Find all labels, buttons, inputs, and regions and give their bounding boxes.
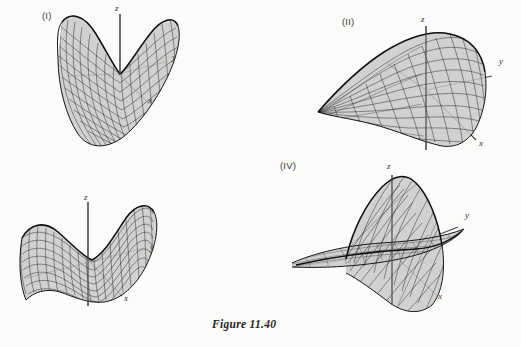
- surface-mesh-1: [57, 16, 179, 154]
- axis-label-y-3: y: [150, 242, 154, 252]
- axis-label-z-4: z: [387, 161, 391, 171]
- axis-label-y-4: y: [465, 210, 469, 220]
- panel-label-1: (I): [42, 10, 52, 21]
- surface-plot-2: [280, 0, 521, 165]
- panel-3: z y x: [0, 180, 230, 330]
- axis-label-z-2: z: [421, 14, 425, 24]
- figure-page: (I): [0, 0, 521, 347]
- surface-plot-3: [0, 180, 230, 330]
- axis-label-y-2: y: [499, 56, 503, 66]
- axis-label-z-3: z: [84, 192, 88, 202]
- panel-1: (I): [0, 0, 230, 160]
- surface-mesh-2: [318, 33, 486, 147]
- axis-label-x-2: x: [479, 138, 483, 148]
- panel-label-2: (II): [342, 16, 354, 27]
- surface-plot-4: [270, 155, 521, 320]
- axis-label-x-4: x: [438, 291, 442, 301]
- panel-2: (II): [280, 0, 521, 165]
- surface-plot-1: [0, 0, 230, 160]
- panel-4: (IV): [270, 155, 521, 320]
- axis-label-x-3: x: [124, 293, 128, 303]
- axis-label-x-1: x: [148, 95, 152, 105]
- axis-label-z-1: z: [115, 3, 119, 13]
- panel-label-4: (IV): [280, 160, 296, 171]
- figure-caption: Figure 11.40: [212, 318, 276, 330]
- axis-label-y-1: y: [172, 52, 176, 62]
